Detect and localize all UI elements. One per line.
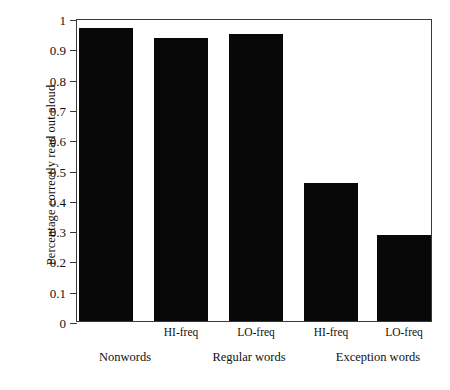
freq-label-exception-hi: HI-freq [314,326,348,338]
bar-regular-lo-freq [229,34,283,321]
y-tick-1: 0.1 [70,293,77,294]
freq-label-regular-hi: HI-freq [164,326,198,338]
bar-exception-lo-freq [377,235,431,321]
y-tick-label-5: 0.5 [50,164,66,182]
y-tick-3: 0.3 [70,232,77,233]
group-label-regular-words: Regular words [212,350,285,365]
y-tick-label-9: 0.9 [50,42,66,60]
y-tick-4: 0.4 [70,202,77,203]
y-tick-5: 0.5 [70,172,77,173]
y-tick-label-6: 0.6 [50,133,66,151]
y-tick-label-7: 0.7 [50,103,66,121]
bar-series [77,20,431,321]
y-tick-label-4: 0.4 [50,194,66,212]
group-label-nonwords: Nonwords [99,350,151,365]
y-tick-10: 1 [70,20,77,21]
y-tick-label-10: 1 [60,12,67,30]
y-tick-7: 0.7 [70,111,77,112]
y-tick-9: 0.9 [70,50,77,51]
y-tick-label-8: 0.8 [50,73,66,91]
y-tick-label-2: 0.2 [50,254,66,272]
plot-area: 0 0.1 0.2 0.3 0.4 0.5 0.6 0.7 [76,19,432,322]
bar-nonwords [79,28,133,321]
y-tick-6: 0.6 [70,141,77,142]
y-tick-8: 0.8 [70,81,77,82]
y-tick-label-0: 0 [60,315,67,333]
freq-label-exception-lo: LO-freq [385,326,423,338]
y-tick-0: 0 [70,323,77,324]
y-tick-label-3: 0.3 [50,224,66,242]
bar-chart-figure: Percentage correctly read out aloud 0 0.… [0,0,450,390]
y-tick-label-1: 0.1 [50,285,66,303]
bar-exception-hi-freq [304,183,358,321]
bar-regular-hi-freq [154,38,208,321]
freq-label-regular-lo: LO-freq [237,326,275,338]
y-tick-2: 0.2 [70,262,77,263]
group-label-exception-words: Exception words [336,350,420,365]
